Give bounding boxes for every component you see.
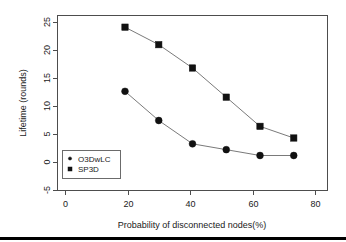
x-tick-label: 20 [123,199,133,209]
data-point [155,117,162,124]
data-point [122,24,128,30]
x-tick-label: 40 [185,199,195,209]
series-line-sp3d [125,27,294,138]
data-point [189,140,196,147]
line-chart: -5 0 5 10 15 20 25 Lifetime (rounds) 0 2… [0,0,346,242]
series-line-o3dwlc [125,91,294,155]
x-tick-label: 60 [248,199,258,209]
data-point [223,146,230,153]
legend-marker-circle-icon [68,157,71,160]
y-tick-label: 15 [42,73,52,83]
chart-legend: O3DwLC SP3D [63,151,121,179]
x-axis-ticks [66,191,316,196]
y-tick-label: 25 [42,17,52,27]
y-axis-title: Lifetime (rounds) [18,69,28,137]
x-tick-label: 80 [310,199,320,209]
bottom-rule [0,237,346,240]
series-layer [122,24,298,159]
y-tick-label: 5 [42,131,52,136]
data-point [223,94,229,100]
y-tick-label: 10 [42,101,52,111]
x-tick-label: 0 [63,199,68,209]
x-axis-tick-labels: 0 20 40 60 80 [63,199,321,209]
y-tick-label: 20 [42,45,52,55]
x-axis-title: Probability of disconnected nodes(%) [118,220,267,230]
legend-label-o3dwlc: O3DwLC [78,155,111,164]
legend-marker-square-icon [68,167,72,171]
legend-label-sp3d: SP3D [78,165,99,174]
y-axis-ticks [53,23,58,191]
y-tick-label: -5 [42,186,52,194]
data-point [156,41,162,47]
y-axis-tick-labels: -5 0 5 10 15 20 25 [42,17,52,194]
y-tick-label: 0 [42,159,52,164]
chart-figure: -5 0 5 10 15 20 25 Lifetime (rounds) 0 2… [0,0,346,242]
data-point [291,135,297,141]
data-point [257,123,263,129]
data-point [290,152,297,159]
data-point [189,65,195,71]
data-point [257,152,264,159]
data-point [122,88,129,95]
